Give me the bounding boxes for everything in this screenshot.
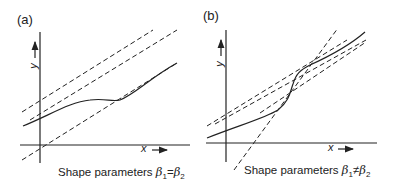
panel-a-y-label: y <box>27 63 39 69</box>
panel-a-middle-asymptote <box>30 30 177 120</box>
panel-b-upper-asymptote <box>207 40 347 126</box>
panel-a-label: (a) <box>17 12 33 27</box>
caption-text: Shape parameters <box>244 164 342 176</box>
panel-b-label: (b) <box>203 8 219 23</box>
panel-a-x-label: x <box>141 142 147 154</box>
panel-a-caption: Shape parameters β1=β2 <box>58 165 185 181</box>
panel-b-steep-tangent <box>234 28 338 170</box>
panel-b-caption: Shape parameters β1≠β2 <box>244 163 370 179</box>
caption-text: Shape parameters <box>58 166 156 178</box>
panel-a-curve <box>23 63 177 126</box>
panel-a-plot <box>20 30 190 163</box>
panel-b-x-label: x <box>328 141 334 153</box>
panel-a-upper-asymptote <box>22 30 153 112</box>
panel-b-y-label: y <box>213 61 225 67</box>
panel-b-plot <box>206 28 377 170</box>
panel-b-lower-asymptote <box>260 42 366 113</box>
diagram-canvas <box>0 0 393 188</box>
panel-b-middle-asymptote <box>215 40 366 124</box>
